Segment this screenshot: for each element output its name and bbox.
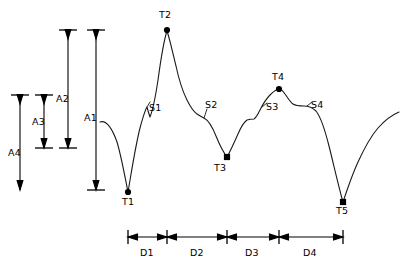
- amplitude-arrows: [11, 30, 105, 191]
- waveform-trace: [100, 31, 399, 202]
- shoulder-leaders: [147, 102, 312, 118]
- leader-S2: [204, 109, 207, 118]
- label-A4: A4: [8, 148, 21, 158]
- label-A1: A1: [84, 113, 97, 123]
- marker-T2: [164, 27, 170, 33]
- label-A2: A2: [56, 94, 69, 104]
- label-S2: S2: [205, 100, 217, 110]
- marker-T1: [125, 189, 131, 195]
- waveform-annotation-figure: T1 T2 T3 T4 T5 S1 S2 S3 S4 A4 A3 A2 A1 D…: [0, 0, 406, 264]
- label-S4: S4: [311, 100, 323, 110]
- duration-arrow-D2: [167, 234, 227, 240]
- label-D1: D1: [140, 248, 154, 258]
- label-D2: D2: [190, 248, 204, 258]
- amplitude-arrow-A1: [87, 30, 105, 191]
- marker-T4: [276, 86, 282, 92]
- duration-arrow-D4: [279, 234, 343, 240]
- label-S3: S3: [266, 102, 278, 112]
- label-T4: T4: [272, 72, 284, 82]
- label-D3: D3: [245, 248, 259, 258]
- duration-arrow-D3: [227, 234, 279, 240]
- marker-T3: [224, 154, 230, 160]
- label-T2: T2: [159, 10, 171, 20]
- label-T3: T3: [214, 163, 226, 173]
- figure-canvas: [0, 0, 406, 264]
- amplitude-arrow-A2: [59, 30, 77, 149]
- label-T1: T1: [122, 197, 134, 207]
- amplitude-arrow-A4: [11, 95, 29, 191]
- label-A3: A3: [32, 117, 45, 127]
- label-S1: S1: [149, 103, 161, 113]
- duration-arrows: [128, 230, 343, 244]
- label-D4: D4: [303, 248, 317, 258]
- turning-point-markers: [125, 27, 346, 205]
- label-T5: T5: [336, 206, 348, 216]
- duration-arrow-D1: [128, 234, 167, 240]
